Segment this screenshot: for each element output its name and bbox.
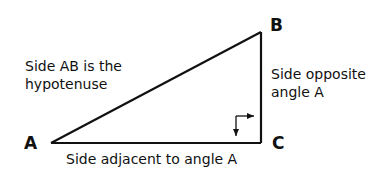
vertex-c-label: C	[272, 133, 284, 153]
vertex-b-label: B	[270, 15, 283, 35]
opposite-label-line2: angle A	[271, 84, 324, 101]
vertex-a-label: A	[24, 133, 37, 153]
adjacent-label: Side adjacent to angle A	[66, 151, 237, 168]
right-angle-marker-icon	[236, 116, 254, 136]
hypotenuse-label-line1: Side AB is the	[25, 58, 122, 75]
hypotenuse-label-line2: hypotenuse	[25, 76, 107, 93]
opposite-label-line1: Side opposite	[271, 66, 366, 83]
